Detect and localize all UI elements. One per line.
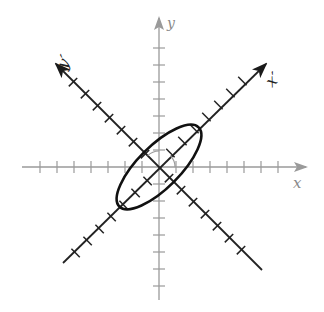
y-axis xyxy=(153,18,165,300)
y-prime-axis-label: y′ xyxy=(52,52,75,73)
x-axis-label: x xyxy=(293,174,302,192)
y-axis-label: y xyxy=(166,15,176,31)
x-prime-axis xyxy=(63,64,266,263)
x-prime-axis-label: x′ xyxy=(261,68,284,91)
rotated-axes-diagram: x y xyxy=(0,0,324,312)
rotation-angle-arc-2 xyxy=(148,151,159,156)
